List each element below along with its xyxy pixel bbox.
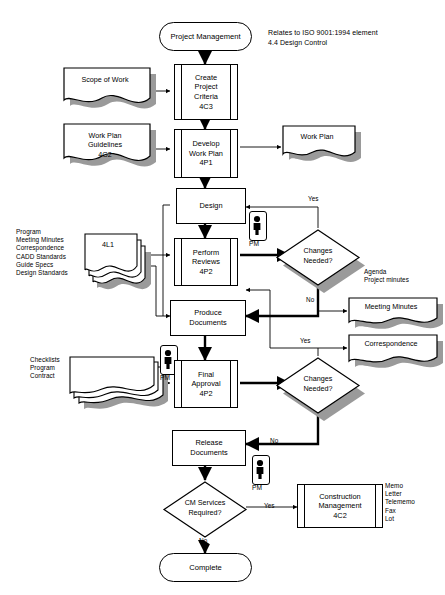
perform-reviews-process[interactable]: Perform Reviews 4P2 [174,238,238,286]
design-process[interactable]: Design [176,188,246,224]
meeting-minutes-label: Meeting Minutes [347,296,435,318]
review-outputs-list: Agenda Project minutes [364,268,442,284]
checklists-document-stack[interactable] [68,355,158,407]
pm-role-label-1: PM [249,240,259,247]
inputs-4l1-label: 4L1 [83,232,141,262]
work-plan-guidelines-label: Work Plan Guidelines 4G2 [62,122,148,156]
inputs-4l1-document-stack[interactable]: 4L1 [83,232,141,286]
changes-needed-decision-1-label: Changes Needed? [277,228,359,283]
cm-outputs-list: Memo Letter Telememo Fax Lot [385,482,443,523]
scope-of-work-document[interactable]: Scope of Work [62,66,148,106]
changes-needed-decision-1[interactable]: Changes Needed? [277,228,359,283]
pm-role-icon-3 [252,455,268,483]
construction-management-process[interactable]: Construction Management 4C2 [297,484,383,528]
develop-work-plan-process[interactable]: Develop Work Plan 4P1 [174,129,238,178]
produce-documents-process[interactable]: Produce Documents [170,300,246,336]
cm-services-required-label: CM Services Required? [164,480,246,535]
final-approval-process[interactable]: Final Approval 4P2 [174,360,238,408]
edge-label-no-2: No [270,437,278,445]
start-terminator[interactable]: Project Management [159,22,252,51]
create-project-criteria-process[interactable]: Create Project Criteria 4C3 [174,64,238,120]
complete-terminator[interactable]: Complete [159,553,252,582]
meeting-minutes-document[interactable]: Meeting Minutes [347,296,435,328]
changes-needed-decision-2-label: Changes Needed? [277,356,359,411]
edge-label-yes-2: Yes [300,337,311,345]
edge-label-yes-1: Yes [308,195,319,203]
correspondence-label: Correspondence [347,333,435,357]
work-plan-guidelines-document[interactable]: Work Plan Guidelines 4G2 [62,122,148,164]
pm-role-icon-1 [249,211,265,239]
changes-needed-decision-2[interactable]: Changes Needed? [277,356,359,411]
edge-label-no-1: No [306,296,314,304]
iso-note: Relates to ISO 9001:1994 element 4.4 Des… [268,28,443,47]
flowchart-canvas: Project Management Relates to ISO 9001:1… [0,0,445,595]
scope-of-work-label: Scope of Work [62,66,148,96]
cm-services-required-decision[interactable]: CM Services Required? [164,480,246,535]
work-plan-output-label: Work Plan [281,124,353,152]
work-plan-output-document[interactable]: Work Plan [281,124,353,162]
pm-role-label-2: PM [160,374,170,381]
release-documents-process[interactable]: Release Documents [172,430,246,466]
checklists-stack-label [68,355,158,381]
edge-label-yes-3: Yes [264,502,275,510]
edge-label-no-3: No [199,537,207,545]
